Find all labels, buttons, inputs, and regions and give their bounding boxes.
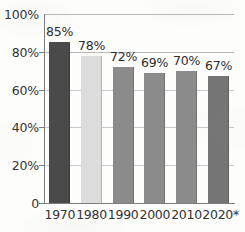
- y-tick-label: 40%: [12, 120, 39, 135]
- bar-rect: [176, 71, 197, 203]
- y-tick-label: 80%: [12, 44, 39, 59]
- bar-value-label: 67%: [205, 58, 232, 73]
- x-axis-line: [44, 203, 235, 204]
- y-axis-tick: [39, 203, 44, 204]
- y-tick-label: 0: [31, 196, 39, 211]
- x-tick-label: 2010: [171, 207, 203, 222]
- bar-value-label: 70%: [173, 53, 200, 68]
- bar: 67%: [208, 76, 229, 203]
- bar: 69%: [144, 73, 165, 203]
- x-tick-label: 2020*: [202, 207, 234, 222]
- bar: 70%: [176, 71, 197, 203]
- y-axis-line: [44, 14, 45, 204]
- x-tick-label: 1980: [76, 207, 108, 222]
- bar-chart: 85%78%72%69%70%67% 100%80%60%40%20%0 197…: [0, 0, 245, 232]
- bars-layer: 85%78%72%69%70%67%: [44, 14, 234, 203]
- bar-value-label: 69%: [141, 55, 168, 70]
- y-axis-tick: [39, 165, 44, 166]
- y-tick-label: 20%: [12, 158, 39, 173]
- bar: 78%: [81, 56, 102, 203]
- x-tick-label: 1990: [107, 207, 139, 222]
- bar-rect: [49, 42, 70, 203]
- y-tick-label: 60%: [12, 82, 39, 97]
- bar: 85%: [49, 42, 70, 203]
- bar-rect: [113, 67, 134, 203]
- bar: 72%: [113, 67, 134, 203]
- x-tick-label: 1970: [44, 207, 76, 222]
- bar-series: 85%78%72%69%70%67%: [44, 14, 234, 203]
- bar-rect: [81, 56, 102, 203]
- bar-value-label: 78%: [78, 38, 105, 53]
- y-tick-label: 100%: [4, 7, 39, 22]
- y-axis-tick: [39, 127, 44, 128]
- y-axis-tick: [39, 90, 44, 91]
- bar-rect: [208, 76, 229, 203]
- bar-rect: [144, 73, 165, 203]
- bar-value-label: 85%: [46, 24, 73, 39]
- bar-value-label: 72%: [110, 49, 137, 64]
- x-tick-label: 2000: [139, 207, 171, 222]
- y-axis-tick: [39, 52, 44, 53]
